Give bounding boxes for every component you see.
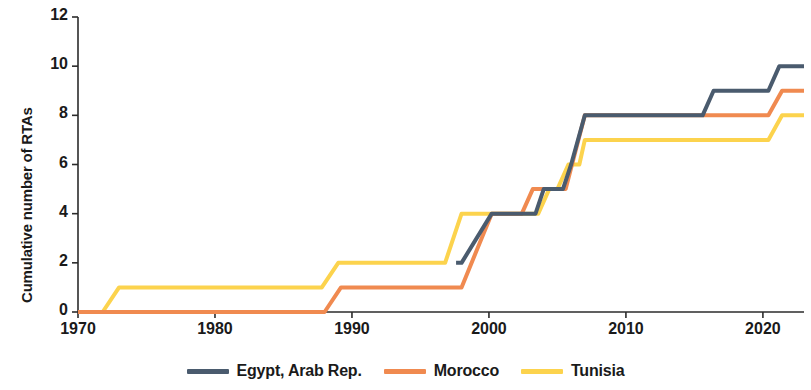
- rta-line-chart: Cumulative number of RTAs 0 2 4 6 8 10 1…: [0, 0, 811, 390]
- legend-swatch-tunisia: [521, 369, 563, 374]
- legend-label-tunisia: Tunisia: [571, 362, 624, 380]
- legend-label-morocco: Morocco: [434, 362, 499, 380]
- legend-item-tunisia: Tunisia: [521, 362, 624, 380]
- legend-swatch-egypt: [187, 369, 229, 374]
- legend-swatch-morocco: [384, 369, 426, 374]
- plot-area: [0, 0, 811, 390]
- chart-legend: Egypt, Arab Rep. Morocco Tunisia: [0, 362, 811, 380]
- legend-item-morocco: Morocco: [384, 362, 499, 380]
- legend-item-egypt: Egypt, Arab Rep.: [187, 362, 362, 380]
- legend-label-egypt: Egypt, Arab Rep.: [237, 362, 362, 380]
- series-lines: [78, 66, 804, 312]
- axis-lines: [72, 17, 804, 318]
